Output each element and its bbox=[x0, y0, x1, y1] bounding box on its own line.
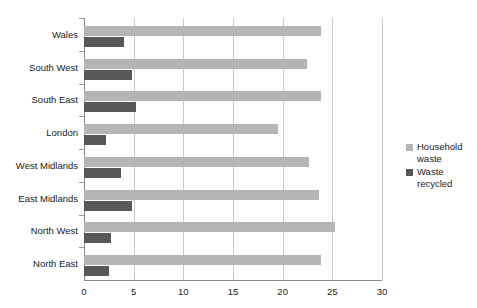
bar bbox=[84, 190, 319, 200]
bar bbox=[84, 233, 111, 243]
y-tick-label: North East bbox=[0, 258, 78, 269]
x-tick-label: 20 bbox=[263, 286, 303, 297]
legend-item[interactable]: Household waste bbox=[406, 141, 462, 164]
y-axis-tick bbox=[79, 51, 84, 52]
bar bbox=[84, 222, 335, 232]
bar bbox=[84, 168, 121, 178]
x-tick-label: 15 bbox=[213, 286, 253, 297]
bar bbox=[84, 135, 106, 145]
y-axis-tick bbox=[79, 247, 84, 248]
x-tick-label: 0 bbox=[64, 286, 104, 297]
y-axis-tick bbox=[79, 84, 84, 85]
bar bbox=[84, 201, 132, 211]
gridline-15 bbox=[233, 18, 234, 280]
x-tick-label: 30 bbox=[362, 286, 402, 297]
x-tick-label: 5 bbox=[114, 286, 154, 297]
y-axis-tick bbox=[79, 18, 84, 19]
y-tick-label: North West bbox=[0, 225, 78, 236]
x-tick-label: 10 bbox=[163, 286, 203, 297]
gridline-10 bbox=[183, 18, 184, 280]
gridline-20 bbox=[283, 18, 284, 280]
y-axis-tick bbox=[79, 149, 84, 150]
y-tick-label: London bbox=[0, 127, 78, 138]
y-axis-tick bbox=[79, 116, 84, 117]
bar bbox=[84, 70, 132, 80]
y-tick-label: South West bbox=[0, 62, 78, 73]
bar bbox=[84, 26, 321, 36]
y-tick-label: Wales bbox=[0, 29, 78, 40]
legend-item[interactable]: Waste recycled bbox=[406, 166, 462, 189]
y-tick-label: South East bbox=[0, 94, 78, 105]
gridline-5 bbox=[134, 18, 135, 280]
bar bbox=[84, 102, 136, 112]
bar bbox=[84, 37, 124, 47]
legend-swatch-icon bbox=[406, 169, 413, 176]
y-axis-tick bbox=[79, 215, 84, 216]
legend-swatch-icon bbox=[406, 144, 413, 151]
legend-label: Waste recycled bbox=[417, 166, 462, 189]
bar bbox=[84, 59, 307, 69]
bar bbox=[84, 255, 321, 265]
bar-chart: WalesSouth WestSouth EastLondonWest Midl… bbox=[0, 0, 477, 308]
gridline-30 bbox=[382, 18, 383, 280]
y-tick-label: East Midlands bbox=[0, 193, 78, 204]
bar bbox=[84, 91, 321, 101]
bar bbox=[84, 157, 309, 167]
chart-legend: Household wasteWaste recycled bbox=[406, 141, 462, 191]
x-axis bbox=[84, 280, 382, 281]
y-axis-tick bbox=[79, 182, 84, 183]
legend-label: Household waste bbox=[417, 141, 462, 164]
bar bbox=[84, 266, 109, 276]
bar bbox=[84, 124, 278, 134]
plot-area bbox=[84, 18, 382, 280]
y-tick-label: West Midlands bbox=[0, 160, 78, 171]
gridline-25 bbox=[332, 18, 333, 280]
x-tick-label: 25 bbox=[312, 286, 352, 297]
